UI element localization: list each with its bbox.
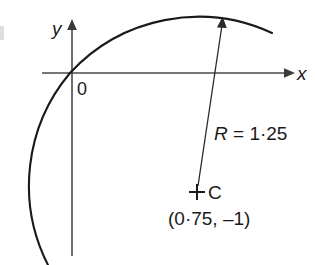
centre-plus-marker	[189, 184, 205, 200]
y-axis	[67, 19, 77, 256]
y-axis-label: y	[52, 19, 62, 38]
radius-equals: =	[228, 123, 250, 144]
origin-label: 0	[77, 80, 87, 98]
centre-coordinates-label: (0·75, –1)	[168, 209, 250, 228]
circle-diagram-figure: y x 0 R = 1·25 C (0·75, –1)	[0, 0, 315, 265]
x-axis	[42, 68, 295, 78]
radius-label: R = 1·25	[214, 124, 287, 143]
radius-value: 1·25	[249, 123, 287, 144]
radius-variable: R	[214, 123, 228, 144]
centre-label: C	[208, 183, 222, 202]
radius-arrow	[198, 17, 227, 187]
x-axis-label: x	[297, 64, 307, 83]
